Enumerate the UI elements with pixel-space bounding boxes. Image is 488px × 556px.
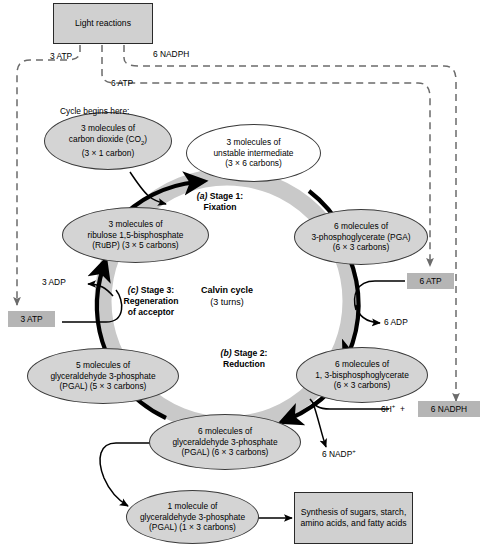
- tag-3-atp-left-label: 3 ATP: [20, 314, 42, 324]
- stage-1-name: Stage 1:: [210, 191, 243, 201]
- co2-line3: (3 × 1 carbon): [82, 148, 134, 158]
- unstable-line3: (3 × 6 carbons): [225, 158, 282, 168]
- pgal1-line3: (PGAL) (1 × 3 carbons): [149, 522, 236, 532]
- label-6-adp: 6 ADP: [384, 317, 408, 327]
- pga-line2: 3-phosphoglycerate (PGA): [311, 232, 410, 242]
- bpg-line3: (6 × 3 carbons): [334, 380, 391, 390]
- oval-pgal-1-text: 1 molecule of glyceraldehyde 3-phosphate…: [136, 501, 249, 533]
- label-3-atp-top: 3 ATP: [50, 51, 72, 61]
- oval-pgal-1[interactable]: 1 molecule of glyceraldehyde 3-phosphate…: [126, 490, 259, 544]
- tag-6-nadph-right[interactable]: 6 NADPH: [418, 401, 480, 417]
- stage-3-sub2: of acceptor: [128, 307, 174, 317]
- label-6-nadp-plus: 6 NADP+: [322, 448, 356, 459]
- synthesis-box[interactable]: Synthesis of sugars, starch, amino acids…: [294, 492, 413, 544]
- oval-pgal-5[interactable]: 5 molecules of glyceraldehyde 3-phosphat…: [27, 348, 179, 404]
- oval-rubp-text: 3 molecules of ribulose 1,5-bisphosphate…: [84, 219, 188, 251]
- synthesis-label: Synthesis of sugars, starch, amino acids…: [295, 507, 412, 529]
- tag-3-atp-left[interactable]: 3 ATP: [8, 311, 55, 327]
- calvin-cycle-diagram: Light reactions Synthesis of sugars, sta…: [0, 0, 488, 556]
- label-3-adp: 3 ADP: [42, 277, 66, 287]
- bpg-line1: 6 molecules of: [335, 359, 389, 369]
- oval-bisphosphoglycerate-text: 6 molecules of 1, 3-bisphosphoglycerate …: [311, 359, 413, 391]
- tag-6-atp-right-label: 6 ATP: [419, 276, 441, 286]
- stage-2-label: (b) Stage 2: Reduction: [188, 348, 300, 370]
- rubp-line2: ribulose 1,5-bisphosphate: [88, 230, 184, 240]
- stage-1-marker: (a): [197, 191, 208, 201]
- light-reactions-label: Light reactions: [72, 18, 134, 29]
- pga-line3: (6 × 3 carbons): [333, 242, 390, 252]
- light-reactions-box[interactable]: Light reactions: [53, 3, 153, 44]
- label-6h-plus: 6H+ +: [381, 403, 405, 414]
- pgal5-line3: (PGAL) (5 × 3 carbons): [60, 381, 147, 391]
- oval-bisphosphoglycerate[interactable]: 6 molecules of 1, 3-bisphosphoglycerate …: [296, 347, 428, 403]
- oval-rubp[interactable]: 3 molecules of ribulose 1,5-bisphosphate…: [62, 207, 209, 263]
- pgal5-line1: 5 molecules of: [76, 360, 130, 370]
- stage-3-name: Stage 3:: [141, 285, 174, 295]
- pgal1-line2: glyceraldehyde 3-phosphate: [140, 512, 245, 522]
- arrow-pgal-exit: [100, 443, 150, 506]
- label-cycle-begins: Cycle begins here:: [60, 106, 129, 116]
- oval-pgal-6-text: 6 molecules of glyceraldehyde 3-phosphat…: [168, 426, 281, 458]
- cycle-center-line2: (3 turns): [210, 297, 244, 307]
- rubp-line3: (RuBP) (3 × 5 carbons): [92, 240, 178, 250]
- rubp-line1: 3 molecules of: [108, 219, 162, 229]
- co2-line1: 3 molecules of: [81, 123, 135, 133]
- pgal6-line2: glyceraldehyde 3-phosphate: [172, 437, 277, 447]
- oval-pga[interactable]: 6 molecules of 3-phosphoglycerate (PGA) …: [294, 209, 428, 265]
- stage-2-sub: Reduction: [223, 359, 265, 369]
- stage-1-label: (a) Stage 1: Fixation: [168, 191, 272, 213]
- label-6-atp-top: 6 ATP: [111, 78, 133, 88]
- pgal6-line1: 6 molecules of: [198, 426, 252, 436]
- cycle-center-title: Calvin cycle (3 turns): [177, 285, 277, 308]
- dashed-3atp-path: [17, 45, 80, 305]
- oval-pgal-5-text: 5 molecules of glyceraldehyde 3-phosphat…: [46, 360, 159, 392]
- stage-3-sub: Regeneration: [124, 296, 179, 306]
- label-6-nadph-top: 6 NADPH: [153, 49, 189, 59]
- unstable-line1: 3 molecules of: [226, 137, 280, 147]
- stage-3-marker: (c): [128, 285, 139, 295]
- tag-6-atp-right[interactable]: 6 ATP: [407, 273, 454, 289]
- oval-unstable-intermediate[interactable]: 3 molecules of unstable intermediate (3 …: [186, 124, 321, 182]
- unstable-line2: unstable intermediate: [213, 148, 293, 158]
- cycle-center-line1: Calvin cycle: [201, 285, 253, 295]
- tag-6-nadph-right-label: 6 NADPH: [431, 404, 467, 414]
- oval-pga-text: 6 molecules of 3-phosphoglycerate (PGA) …: [307, 221, 414, 253]
- pgal5-line2: glyceraldehyde 3-phosphate: [50, 371, 155, 381]
- stage-2-name: Stage 2:: [234, 348, 267, 358]
- co2-line2: carbon dioxide (CO2): [69, 134, 147, 144]
- oval-pgal-6[interactable]: 6 molecules of glyceraldehyde 3-phosphat…: [149, 414, 301, 470]
- pga-line1: 6 molecules of: [334, 221, 388, 231]
- bpg-line2: 1, 3-bisphosphoglycerate: [315, 370, 409, 380]
- oval-carbon-dioxide[interactable]: 3 molecules of carbon dioxide (CO2) (3 ×…: [44, 112, 172, 170]
- stage-2-marker: (b): [221, 348, 232, 358]
- arrow-atp6-into-cycle: [355, 281, 405, 310]
- oval-unstable-intermediate-text: 3 molecules of unstable intermediate (3 …: [209, 137, 297, 169]
- pgal1-line1: 1 molecule of: [168, 501, 218, 511]
- oval-carbon-dioxide-text: 3 molecules of carbon dioxide (CO2) (3 ×…: [65, 123, 151, 158]
- stage-1-sub: Fixation: [204, 202, 237, 212]
- pgal6-line3: (PGAL) (6 × 3 carbons): [182, 447, 269, 457]
- arrow-to-6nadp: [313, 403, 326, 447]
